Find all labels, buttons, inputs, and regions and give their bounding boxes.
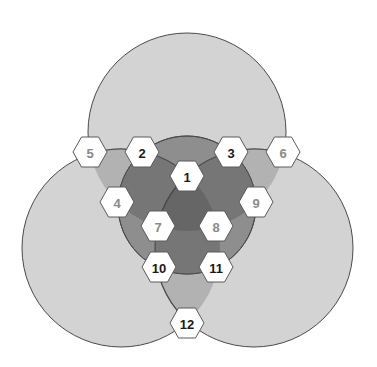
hexagon-label: 5 xyxy=(86,146,93,161)
hexagon-label: 6 xyxy=(279,146,286,161)
hexagon-label: 2 xyxy=(138,146,145,161)
hexagon-label: 10 xyxy=(152,261,166,276)
hexagon-label: 11 xyxy=(209,261,223,276)
hexagon-label: 4 xyxy=(113,196,121,211)
hexagon-label: 3 xyxy=(227,146,234,161)
hexagon-label: 8 xyxy=(212,220,219,235)
hexagon-label: 9 xyxy=(252,196,259,211)
hexagon-label: 7 xyxy=(154,220,161,235)
hexagon-label: 1 xyxy=(183,170,190,185)
venn-diagram: 123456789101112 xyxy=(0,0,377,367)
hexagon-label: 12 xyxy=(180,317,194,332)
